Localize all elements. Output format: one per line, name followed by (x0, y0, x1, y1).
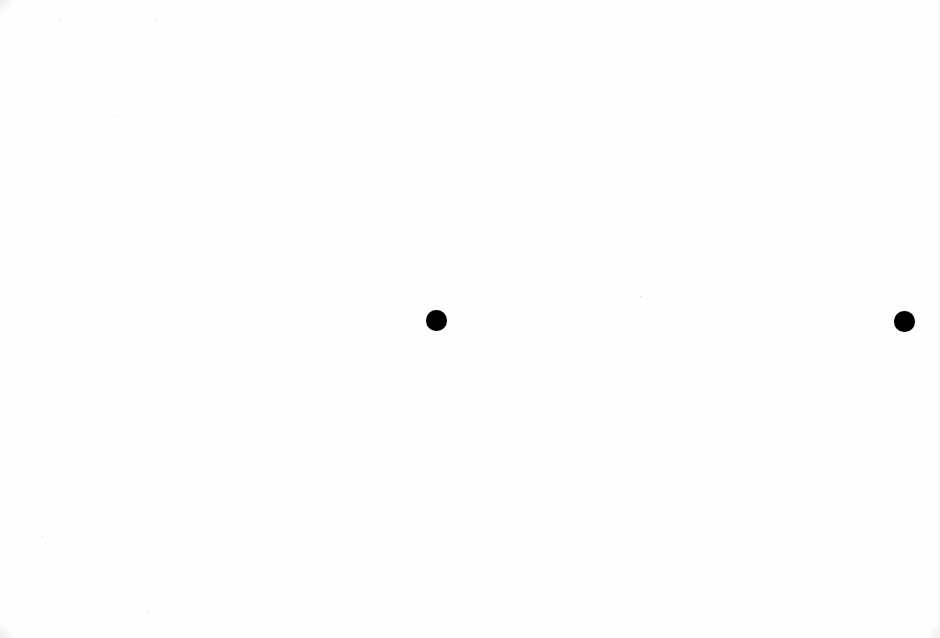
scan-speck (155, 20, 156, 21)
scan-speck (114, 116, 115, 117)
scan-speck (42, 536, 43, 537)
scan-speck (148, 611, 149, 612)
scan-corner-shadow (0, 0, 14, 14)
scan-corner-shadow (0, 624, 14, 638)
scanned-page (0, 0, 940, 638)
scan-speck (640, 296, 641, 297)
scan-speck (60, 20, 61, 21)
punch-hole-mark (426, 310, 447, 331)
punch-hole-mark (894, 311, 915, 332)
